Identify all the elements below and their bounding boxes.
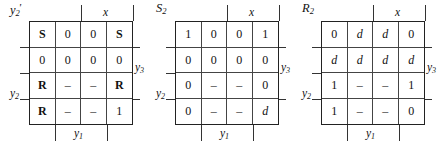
x-span-tick-right — [279, 5, 280, 21]
kmap-cell-value: – — [382, 79, 388, 91]
kmap-cell-value: d — [331, 54, 337, 66]
kmap-cell-value: 0 — [90, 54, 96, 66]
axis-label-y2: y2 — [10, 88, 19, 101]
axis-label-y2-subscript: 2 — [307, 92, 311, 101]
axis-label-y3-subscript: 3 — [432, 66, 436, 75]
kmap-title-2: S2 — [156, 2, 167, 16]
kmap-cell-value: d — [357, 28, 363, 40]
kmap-cell-value: R — [115, 79, 124, 91]
kmap-cell-value: 1 — [185, 28, 191, 40]
kmap-cell-value: 0 — [408, 105, 414, 117]
kmap-cell: 0 — [81, 48, 107, 74]
kmap-cell-value: – — [211, 105, 217, 117]
kmap-cell: 0 — [56, 22, 82, 48]
kmap-cell: 0 — [399, 99, 425, 125]
kmap-cell-value: – — [357, 79, 363, 91]
kmap-cell-value: 0 — [262, 79, 268, 91]
axis-label-x: x — [395, 7, 400, 19]
kmap-cell-value: 0 — [408, 28, 414, 40]
kmap-cell-value: 0 — [211, 28, 217, 40]
kmap-cell: d — [322, 48, 348, 74]
kmap-cell: – — [348, 73, 374, 99]
axis-label-y2-subscript: 2 — [15, 92, 19, 101]
kmap-cell-value: 1 — [331, 79, 337, 91]
kmap-title-subscript: 2 — [310, 6, 314, 16]
kmap-cell-value: – — [65, 79, 71, 91]
axis-label-x: x — [103, 7, 108, 19]
y1-span-tick-left — [347, 125, 348, 141]
kmap-cell: d — [373, 22, 399, 48]
kmap-title-base: R — [302, 1, 310, 15]
kmap-cell-value: 0 — [65, 54, 71, 66]
kmap-cell-value: – — [236, 105, 242, 117]
kmap-cell: 0 — [322, 22, 348, 48]
kmap-cell-value: 1 — [408, 79, 414, 91]
kmap-cell: S — [30, 22, 56, 48]
kmap-cell: 0 — [227, 22, 253, 48]
kmap-cell-value: – — [90, 79, 96, 91]
y1-span-tick-right — [253, 125, 254, 141]
karnaugh-map-figure: y2'S00S0000R––RR––1xy1y3y2S2100100000––0… — [0, 0, 438, 148]
kmap-cell-value: d — [262, 105, 268, 117]
kmap-cell: – — [56, 73, 82, 99]
axis-label-x-base: x — [103, 6, 108, 18]
kmap-cell-value: – — [90, 105, 96, 117]
kmap-cell: – — [373, 73, 399, 99]
axis-label-y1-subscript: 1 — [79, 132, 83, 141]
kmap-cell-value: – — [211, 79, 217, 91]
kmap-cell: 0 — [176, 73, 202, 99]
kmap-title-3: R2 — [302, 2, 314, 16]
axis-label-y1-subscript: 1 — [225, 132, 229, 141]
kmap-title-1: y2' — [10, 2, 21, 18]
kmap-cell: d — [253, 99, 279, 125]
kmap-cell: 1 — [399, 73, 425, 99]
kmap-cell-value: S — [39, 28, 46, 40]
kmap-cell: 0 — [81, 22, 107, 48]
kmap-cell: 0 — [227, 48, 253, 74]
kmap-1: y2'S00S0000R––RR––1xy1y3y2 — [0, 0, 146, 148]
kmap-cell: 1 — [107, 99, 133, 125]
axis-label-y2: y2 — [156, 88, 165, 101]
kmap-cell: 1 — [322, 99, 348, 125]
kmap-cell-value: 0 — [185, 54, 191, 66]
kmap-cell: – — [227, 99, 253, 125]
kmap-cell: 1 — [322, 73, 348, 99]
kmap-cell-value: 0 — [185, 105, 191, 117]
kmap-cell-value: – — [357, 105, 363, 117]
kmap-cell: 0 — [399, 22, 425, 48]
kmap-cell: – — [81, 99, 107, 125]
axis-label-y3: y3 — [135, 62, 144, 75]
y1-span-tick-right — [107, 125, 108, 141]
kmap-cell: R — [107, 73, 133, 99]
y1-span-tick-left — [55, 125, 56, 141]
kmap-cell-value: 1 — [262, 28, 268, 40]
kmap-cell: R — [30, 73, 56, 99]
kmap-cell: 0 — [253, 48, 279, 74]
kmap-cell: 0 — [56, 48, 82, 74]
kmap-cell: – — [348, 99, 374, 125]
kmap-cell-value: d — [357, 54, 363, 66]
kmap-cell: d — [348, 22, 374, 48]
axis-label-y3: y3 — [281, 62, 290, 75]
kmap-title-prime: ' — [19, 1, 21, 13]
kmap-cell: 1 — [253, 22, 279, 48]
kmap-title-subscript: 2 — [162, 6, 166, 16]
kmap-grid-3: 0dd0dddd1––11––0 — [321, 21, 425, 125]
kmap-cell-value: – — [65, 105, 71, 117]
axis-label-y3-subscript: 3 — [286, 66, 290, 75]
kmap-cell-value: – — [382, 105, 388, 117]
kmap-cell: d — [399, 48, 425, 74]
kmap-cell: 0 — [176, 99, 202, 125]
kmap-grid-1: S00S0000R––RR––1 — [29, 21, 133, 125]
axis-label-y3: y3 — [427, 62, 436, 75]
axis-label-y2-subscript: 2 — [161, 92, 165, 101]
x-span-tick-left — [81, 5, 82, 21]
kmap-2: S2100100000––00––dxy1y3y2 — [146, 0, 292, 148]
kmap-cell-value: 0 — [236, 54, 242, 66]
axis-label-x: x — [249, 7, 254, 19]
kmap-cell: d — [373, 48, 399, 74]
kmap-cell: 0 — [30, 48, 56, 74]
kmap-cell-value: 1 — [331, 105, 337, 117]
kmap-cell-value: R — [38, 79, 47, 91]
kmap-cell-value: 0 — [211, 54, 217, 66]
